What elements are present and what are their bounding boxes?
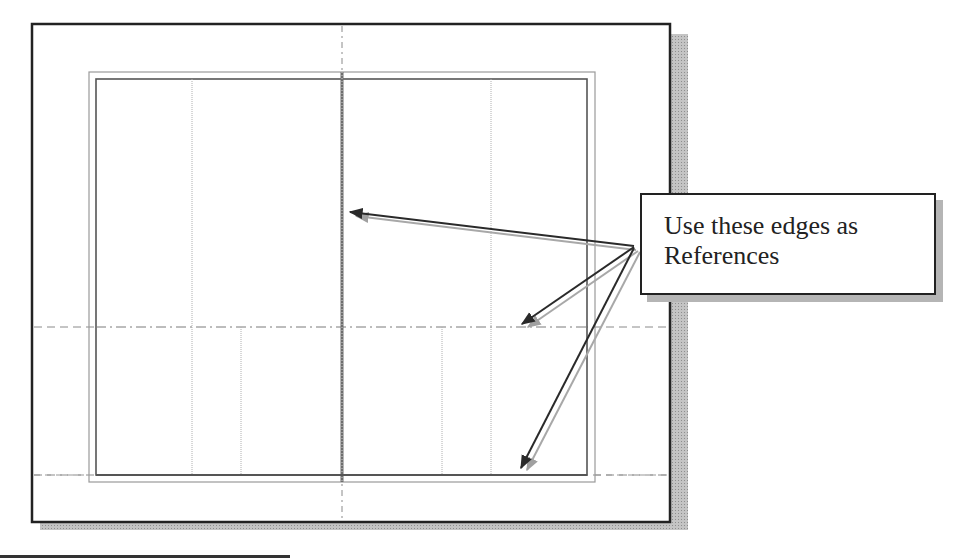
callout-line-1: Use these edges as xyxy=(664,211,934,241)
callout-box: Use these edges as References xyxy=(640,193,936,295)
callout-line-2: References xyxy=(664,241,934,271)
